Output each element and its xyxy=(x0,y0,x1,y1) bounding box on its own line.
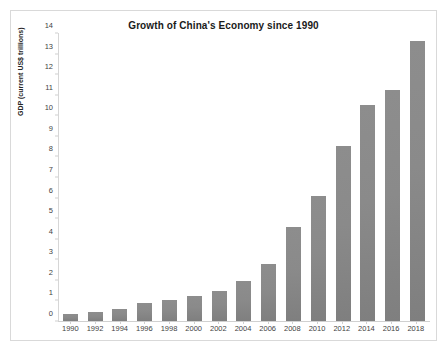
x-tick-mark xyxy=(194,321,195,324)
x-tick-label: 2000 xyxy=(181,324,206,333)
bar xyxy=(187,296,202,321)
y-tick-label: 9 xyxy=(49,123,53,132)
x-tick-mark xyxy=(342,321,343,324)
x-tick-label: 1992 xyxy=(83,324,108,333)
bar-column xyxy=(83,33,108,321)
x-tick-label: 2018 xyxy=(403,324,428,333)
y-tick-label: 2 xyxy=(49,267,53,276)
bar-column xyxy=(132,33,157,321)
x-tick-label: 1994 xyxy=(107,324,132,333)
y-tick-label: 12 xyxy=(45,62,53,71)
x-tick-mark xyxy=(95,321,96,324)
chart-frame: Growth of China's Economy since 1990 GDP… xyxy=(10,10,437,341)
x-tick-mark xyxy=(218,321,219,324)
bar xyxy=(63,314,78,321)
x-tick-label: 1990 xyxy=(58,324,83,333)
y-tick-label: 6 xyxy=(49,185,53,194)
bar-column xyxy=(306,33,331,321)
bar-column xyxy=(281,33,306,321)
bar xyxy=(360,105,375,321)
bar xyxy=(112,309,127,321)
x-tick-label: 2010 xyxy=(305,324,330,333)
bar xyxy=(410,41,425,321)
y-tick-label: 5 xyxy=(49,206,53,215)
bar-column xyxy=(356,33,381,321)
bar-column xyxy=(232,33,257,321)
x-tick-label: 2012 xyxy=(329,324,354,333)
y-tick-label: 4 xyxy=(49,226,53,235)
bar xyxy=(88,312,103,321)
bar-column xyxy=(157,33,182,321)
y-tick-label: 8 xyxy=(49,144,53,153)
bar-series xyxy=(58,33,430,321)
x-tick-label: 2014 xyxy=(354,324,379,333)
bar-column xyxy=(182,33,207,321)
x-tick-mark xyxy=(391,321,392,324)
y-axis-label: GDP (current US$ trillions) xyxy=(17,0,24,116)
bar xyxy=(236,281,251,321)
bar xyxy=(286,227,301,321)
bar xyxy=(137,303,152,321)
x-tick-mark xyxy=(70,321,71,324)
x-tick-mark xyxy=(169,321,170,324)
plot-area: 01234567891011121314 xyxy=(58,33,430,322)
x-tick-label: 1996 xyxy=(132,324,157,333)
y-tick-label: 0 xyxy=(49,309,53,318)
x-tick-mark xyxy=(243,321,244,324)
bar-column xyxy=(331,33,356,321)
x-tick-label: 2004 xyxy=(231,324,256,333)
bar-column xyxy=(380,33,405,321)
y-tick-label: 11 xyxy=(45,82,53,91)
bar-column xyxy=(405,33,430,321)
y-tick-label: 10 xyxy=(45,103,53,112)
y-tick-label: 13 xyxy=(45,41,53,50)
y-tick-label: 7 xyxy=(49,165,53,174)
bar xyxy=(261,264,276,321)
x-tick-mark xyxy=(120,321,121,324)
x-tick-label: 2016 xyxy=(379,324,404,333)
bar-column xyxy=(108,33,133,321)
bar xyxy=(212,291,227,321)
bar-column xyxy=(207,33,232,321)
x-tick-mark xyxy=(144,321,145,324)
y-tick-label: 14 xyxy=(45,21,53,30)
x-tick-mark xyxy=(268,321,269,324)
chart-title: Growth of China's Economy since 1990 xyxy=(11,20,436,31)
bar-column xyxy=(58,33,83,321)
y-tick-label: 3 xyxy=(49,247,53,256)
x-tick-label: 1998 xyxy=(157,324,182,333)
x-axis-ticks: 1990199219941996199820002002200420062008… xyxy=(58,324,428,333)
x-tick-label: 2002 xyxy=(206,324,231,333)
x-tick-mark xyxy=(366,321,367,324)
x-tick-mark xyxy=(292,321,293,324)
bar xyxy=(162,300,177,321)
bar-column xyxy=(256,33,281,321)
x-tick-label: 2008 xyxy=(280,324,305,333)
bar xyxy=(385,90,400,321)
x-tick-mark xyxy=(317,321,318,324)
x-tick-label: 2006 xyxy=(255,324,280,333)
bar xyxy=(336,146,351,321)
bar xyxy=(311,196,326,321)
x-tick-mark xyxy=(416,321,417,324)
y-tick-label: 1 xyxy=(49,288,53,297)
